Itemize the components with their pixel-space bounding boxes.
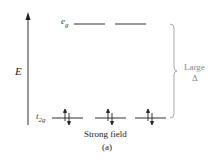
t2g-label-sub: 2g [39, 116, 46, 124]
crystal-field-diagram: E eg t2g Large Δ Strong field (a) [0, 0, 220, 166]
splitting-label: Large [184, 63, 205, 72]
caption: Strong field [84, 130, 127, 139]
eg-label-sub: g [65, 21, 69, 29]
splitting-delta-symbol: Δ [192, 74, 198, 83]
panel-label: (a) [102, 143, 112, 152]
energy-axis-label: E [15, 66, 22, 77]
eg-label: eg [61, 17, 69, 29]
energy-axis-arrow [26, 12, 31, 125]
t2g-label: t2g [36, 112, 46, 124]
electron-pair-arrows [64, 109, 154, 125]
splitting-brace-icon [170, 24, 177, 118]
